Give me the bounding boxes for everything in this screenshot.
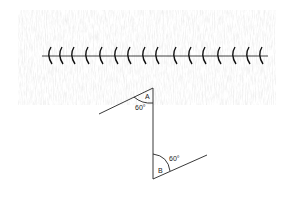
point-label-b: B — [158, 167, 163, 174]
angle-value-b: 60° — [169, 155, 180, 162]
angle-value-a: 60° — [135, 104, 146, 111]
point-label-a: A — [145, 93, 150, 100]
diagram-canvas: A 60° B 60° — [0, 0, 287, 203]
